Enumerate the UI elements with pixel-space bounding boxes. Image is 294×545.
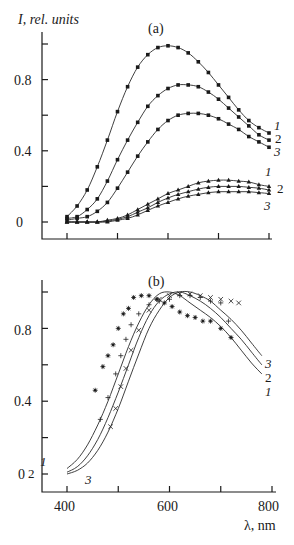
asterisk-center (132, 296, 134, 298)
square-marker (227, 96, 231, 100)
x-marker (113, 406, 118, 411)
panel-a-title: (a) (148, 21, 164, 37)
curve-label-b-2-left: 2 (28, 466, 35, 481)
square-marker (247, 135, 251, 139)
square-marker (227, 106, 231, 110)
square-marker (126, 138, 130, 142)
square-marker (176, 113, 180, 117)
panel-b-ytick-0: 0 (18, 467, 25, 482)
asterisk-center (186, 314, 188, 316)
square-marker (267, 138, 271, 142)
square-marker (136, 65, 140, 69)
square-marker (237, 108, 241, 112)
curve-label-a-tri-1: 1 (265, 164, 272, 179)
square-marker (156, 94, 160, 98)
plus-marker (118, 353, 123, 358)
panel-b-curves (67, 291, 262, 474)
square-marker (257, 126, 261, 130)
square-marker (106, 138, 110, 142)
curve-label-b-1-left: 1 (40, 454, 47, 469)
square-marker (247, 124, 251, 128)
square-marker (96, 210, 100, 214)
square-marker (217, 83, 221, 87)
x-axis-label: λ, nm (244, 518, 276, 533)
panel-b-ytick-0.8: 0.8 (14, 323, 32, 338)
asterisk-center (194, 316, 196, 318)
square-marker (116, 110, 120, 114)
panel-a: I, rel. units (a) 0 0.4 0.8 1 2 3 1 2 3 (14, 12, 284, 239)
panel-a-ytick-0.4: 0.4 (14, 144, 32, 159)
square-marker (106, 201, 110, 205)
square-marker (116, 186, 120, 190)
plus-marker (98, 417, 103, 422)
x-marker (147, 308, 152, 313)
y-axis-label: I, rel. units (17, 12, 79, 27)
square-marker (237, 128, 241, 132)
square-marker (186, 112, 190, 116)
asterisk-center (230, 336, 232, 338)
square-marker (197, 85, 201, 89)
square-marker (85, 215, 89, 219)
square-marker (166, 44, 170, 48)
asterisk-center (102, 365, 104, 367)
panel-a-axes (42, 32, 272, 239)
curve-2 (67, 292, 262, 472)
panel-b: (b) 0 0.4 0.8 400 600 800 λ, nm 1 2 3 3 … (14, 274, 279, 533)
curve-label-b-2-right: 2 (265, 370, 272, 385)
square-marker (106, 179, 110, 183)
asterisk-center (179, 311, 181, 313)
plus-marker (226, 319, 231, 324)
square-marker (136, 121, 140, 125)
asterisk-center (148, 294, 150, 296)
square-marker (257, 133, 261, 137)
square-marker (257, 140, 261, 144)
x-marker (108, 424, 113, 429)
plus-marker (136, 311, 141, 316)
asterisk-center (112, 344, 114, 346)
square-marker (197, 112, 201, 116)
square-marker (176, 83, 180, 87)
square-marker (146, 105, 150, 109)
asterisk-center (155, 298, 157, 300)
panel-a-curves (65, 44, 271, 224)
asterisk-center (122, 313, 124, 315)
curve-label-b-3-right: 3 (264, 356, 272, 371)
square-marker (116, 158, 120, 162)
curve-label-a-tri-2: 2 (277, 181, 284, 196)
square-marker (186, 51, 190, 55)
panel-a-y-ticks (42, 44, 48, 222)
square-marker (136, 154, 140, 158)
curve-label-a-sq-3: 3 (273, 144, 281, 159)
panel-b-title: (b) (148, 274, 165, 290)
panel-a-ytick-0.8: 0.8 (14, 73, 32, 88)
panel-a-x-ticks (67, 233, 269, 239)
square-marker (126, 85, 130, 89)
square-marker (217, 97, 221, 101)
curve-3 (67, 291, 262, 474)
asterisk-center (94, 389, 96, 391)
square-marker (166, 119, 170, 123)
square-marker (207, 113, 211, 117)
square-marker (207, 71, 211, 75)
square-marker (217, 117, 221, 121)
panel-b-xtick-600: 600 (157, 499, 178, 514)
asterisk-center (127, 307, 129, 309)
square-marker (126, 170, 130, 174)
square-marker (237, 115, 241, 119)
x-marker (129, 348, 134, 353)
square-marker (207, 90, 211, 94)
x-marker (229, 299, 234, 304)
asterisk-center (202, 320, 204, 322)
panel-a-ytick-0: 0 (16, 215, 23, 230)
asterisk-center (209, 320, 211, 322)
square-marker (85, 188, 89, 192)
panel-b-ytick-0.4: 0.4 (14, 394, 32, 409)
square-marker (96, 197, 100, 201)
plus-marker (129, 322, 134, 327)
asterisk-center (163, 302, 165, 304)
figure: I, rel. units (a) 0 0.4 0.8 1 2 3 1 2 3 … (0, 0, 294, 545)
plus-marker (123, 337, 128, 342)
square-marker (75, 204, 79, 208)
square-marker (267, 145, 271, 149)
asterisk-center (171, 305, 173, 307)
